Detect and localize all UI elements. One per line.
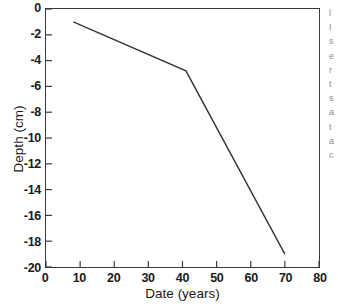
- margin-text-line: t: [329, 120, 338, 134]
- data-line-depth-profile: [73, 22, 285, 254]
- x-tick-label: 20: [107, 272, 120, 285]
- margin-text-line: I: [329, 20, 338, 34]
- margin-text-line: r: [329, 63, 338, 77]
- x-tick-label: 70: [279, 272, 292, 285]
- y-tick-label: 0: [34, 2, 41, 15]
- x-tick-label: 40: [176, 272, 189, 285]
- margin-text-line: s: [329, 91, 338, 105]
- x-tick-label: 30: [141, 272, 154, 285]
- y-tick-label: -4: [30, 54, 41, 67]
- y-axis-title-wrapper: Depth (cm): [9, 59, 27, 219]
- margin-text-line: a: [329, 134, 338, 148]
- data-series-line: [73, 22, 285, 254]
- y-tick-label: -6: [30, 80, 41, 93]
- x-axis-title: Date (years): [45, 287, 320, 301]
- margin-text-line: c: [329, 148, 338, 162]
- y-tick-label: -2: [30, 28, 41, 41]
- plot-svg: [46, 9, 319, 267]
- margin-text-line: s: [329, 34, 338, 48]
- x-tick-label: 50: [210, 272, 223, 285]
- x-tick-label: 0: [42, 272, 49, 285]
- page-margin-text-sliver: lIsertsatac: [329, 6, 338, 186]
- margin-text-line: e: [329, 49, 338, 63]
- plot-area: [45, 8, 320, 268]
- tick-marks: [46, 9, 319, 267]
- y-tick-label: -8: [30, 106, 41, 119]
- margin-text-line: l: [329, 6, 338, 20]
- margin-text-line: a: [329, 105, 338, 119]
- x-tick-label: 10: [73, 272, 86, 285]
- margin-text-line: t: [329, 77, 338, 91]
- x-tick-label: 80: [313, 272, 326, 285]
- y-tick-label: -18: [24, 236, 41, 249]
- y-axis-title: Depth (cm): [11, 106, 26, 173]
- chart-figure: 0-2-4-6-8-10-12-14-16-18-20 010203040506…: [0, 0, 338, 304]
- x-tick-label: 60: [245, 272, 258, 285]
